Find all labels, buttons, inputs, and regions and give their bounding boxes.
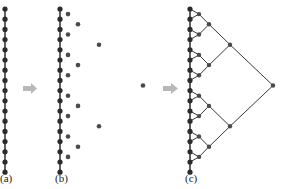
node [57,88,62,93]
panel-label-c: (c) [185,172,197,184]
node [2,139,7,144]
node [57,68,62,73]
node [57,159,62,164]
node [57,119,62,124]
node [76,104,81,109]
node [76,22,81,27]
node [76,144,81,149]
node [2,27,7,32]
node [66,32,71,37]
node [57,17,62,22]
node [187,78,192,83]
node [228,124,232,128]
node [66,12,71,17]
node [207,22,211,26]
node [2,37,7,42]
node [197,134,201,138]
node [57,78,62,83]
node [187,37,192,42]
node [2,108,7,113]
node [187,57,192,62]
node [57,139,62,144]
node [228,43,232,47]
node [2,98,7,103]
node [2,119,7,124]
arrow-icon [23,83,37,94]
node [207,104,211,108]
node [207,145,211,149]
panel-a-chain [2,6,7,174]
node [187,149,192,154]
panel-label-b: (b) [55,172,68,184]
node [57,57,62,62]
node [187,27,192,32]
node [76,63,81,68]
node [57,108,62,113]
node [66,114,71,119]
node [66,53,71,58]
node [57,37,62,42]
node [187,88,192,93]
node [97,42,102,47]
node [2,47,7,52]
node [187,47,192,52]
node [197,155,201,159]
node [197,53,201,57]
node [197,12,201,16]
node [197,94,201,98]
node [197,73,201,77]
node [141,83,146,88]
node [187,108,192,113]
panel-b-hierarchy-nodes [57,6,145,174]
hierarchy-diagram [0,0,284,189]
node [57,27,62,32]
node [2,149,7,154]
node [187,139,192,144]
node [187,17,192,22]
node [187,119,192,124]
node [57,47,62,52]
node [187,129,192,134]
node [2,78,7,83]
node [57,149,62,154]
arrow-icon [163,83,178,94]
panel-c-tree [187,6,275,174]
node [2,17,7,22]
node [187,98,192,103]
node [197,114,201,118]
node [57,129,62,134]
node [2,68,7,73]
node [57,98,62,103]
node [2,6,7,11]
node [66,155,71,160]
node [66,93,71,98]
node [66,73,71,78]
node [271,83,275,87]
node [187,159,192,164]
node [2,159,7,164]
node [2,129,7,134]
node [66,134,71,139]
node [197,32,201,36]
node [187,6,192,11]
panel-label-a: (a) [0,172,12,184]
node [2,88,7,93]
node [57,6,62,11]
node [2,57,7,62]
node [187,68,192,73]
node [97,124,102,129]
node [207,63,211,67]
